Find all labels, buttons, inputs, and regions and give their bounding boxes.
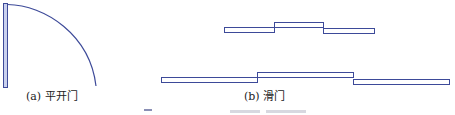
slider-panel-left bbox=[225, 28, 275, 33]
caption-mark bbox=[144, 109, 152, 111]
door-swing-arc bbox=[8, 5, 97, 87]
slider-panel-middle bbox=[258, 73, 354, 78]
caption-ghost-text bbox=[230, 110, 260, 113]
caption-swing-door: (a) 平开门 bbox=[26, 91, 78, 103]
figure-caption-clipped bbox=[140, 107, 320, 115]
caption-ghost-text bbox=[266, 110, 306, 113]
sliding-door-large bbox=[162, 73, 450, 85]
slider-panel-right bbox=[324, 29, 375, 34]
caption-sliding-door: (b) 滑门 bbox=[244, 91, 285, 103]
slider-panel-middle bbox=[275, 23, 324, 28]
sliding-door-small bbox=[225, 23, 375, 34]
door-leaf bbox=[4, 4, 8, 88]
swing-door-figure bbox=[4, 4, 97, 88]
slider-panel-right bbox=[354, 80, 450, 85]
slider-panel-left bbox=[162, 78, 258, 83]
